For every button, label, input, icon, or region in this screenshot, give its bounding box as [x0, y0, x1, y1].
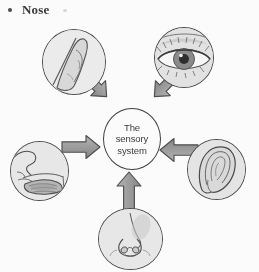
sense-node-sight[interactable] [154, 27, 214, 88]
center-node-label: The sensory system [116, 122, 149, 157]
arrow-taste-to-center [62, 136, 100, 159]
sense-node-touch[interactable] [42, 29, 106, 95]
sense-node-taste[interactable] [10, 141, 69, 201]
sense-node-smell[interactable] [98, 208, 163, 270]
fingertip-skin-icon [43, 30, 105, 94]
sense-node-hearing[interactable] [187, 139, 246, 200]
center-node-sensory-system[interactable]: The sensory system [103, 108, 161, 170]
mouth-tongue-cross-section-icon [11, 142, 68, 200]
sensory-system-diagram: The sensory system [0, 0, 259, 272]
ear-icon [188, 140, 245, 199]
nose-icon [99, 209, 162, 269]
eye-icon [155, 28, 213, 87]
